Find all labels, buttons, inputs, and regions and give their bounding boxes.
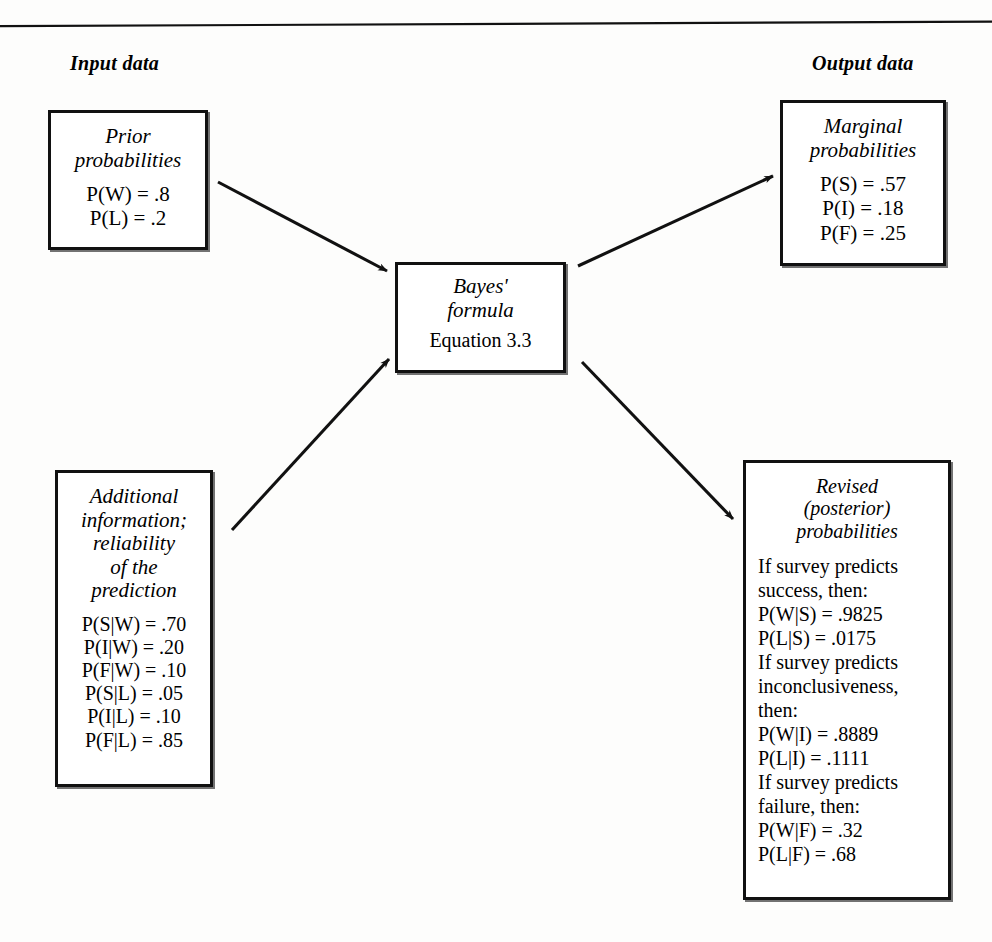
box-bayes-formula: Bayes' formula Equation 3.3 xyxy=(395,262,566,373)
box-additional-values: P(S|W) = .70 P(I|W) = .20 P(F|W) = .10 P… xyxy=(82,613,187,752)
section-header-input: Input data xyxy=(70,52,159,75)
diagram-canvas: Input data Output data Prior probabiliti… xyxy=(0,0,992,942)
box-prior-probabilities: Prior probabilities P(W) = .8 P(L) = .2 xyxy=(48,110,208,250)
arrow-prior-to-bayes xyxy=(218,182,387,271)
box-prior-values: P(W) = .8 P(L) = .2 xyxy=(86,182,170,231)
box-revised-values: If survey predicts success, then: P(W|S)… xyxy=(746,554,899,866)
arrow-bayes-to-marginal xyxy=(578,176,773,266)
box-prior-title: Prior probabilities xyxy=(75,125,182,172)
top-horizontal-rule xyxy=(0,20,992,28)
section-header-output: Output data xyxy=(812,52,914,75)
box-marginal-title: Marginal probabilities xyxy=(810,115,917,162)
arrow-bayes-to-revised xyxy=(582,362,733,519)
box-revised-title: Revised (posterior) probabilities xyxy=(796,475,897,542)
box-additional-information: Additional information; reliability of t… xyxy=(55,470,213,787)
box-additional-title: Additional information; reliability of t… xyxy=(81,485,187,603)
box-marginal-probabilities: Marginal probabilities P(S) = .57 P(I) =… xyxy=(780,100,946,266)
box-revised-probabilities: Revised (posterior) probabilities If sur… xyxy=(743,460,951,900)
box-marginal-values: P(S) = .57 P(I) = .18 P(F) = .25 xyxy=(820,172,906,245)
arrow-additional-to-bayes xyxy=(232,359,389,530)
box-bayes-title: Bayes' formula xyxy=(447,275,514,322)
box-bayes-equation-ref: Equation 3.3 xyxy=(429,329,531,352)
